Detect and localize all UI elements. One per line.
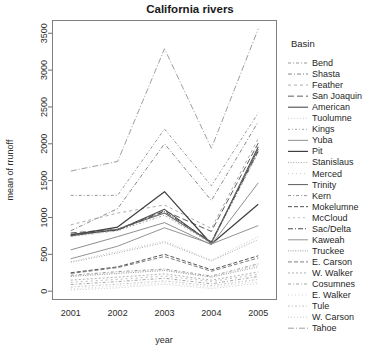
legend-item-tahoe[interactable]: Tahoe: [312, 323, 337, 333]
legend-item-w-carson[interactable]: W. Carson: [312, 312, 354, 322]
legend-item-e-carson[interactable]: E. Carson: [312, 257, 352, 267]
legend-item-kaweah[interactable]: Kaweah: [312, 235, 345, 245]
legend-item-trinity[interactable]: Trinity: [312, 180, 337, 190]
y-tick-label: 3000: [39, 60, 49, 80]
legend-item-san-joaquin[interactable]: San Joaquin: [312, 91, 362, 101]
y-tick-label: 500: [39, 247, 49, 262]
legend-item-cosumnes[interactable]: Cosumnes: [312, 279, 356, 289]
y-tick-label: 2500: [39, 97, 49, 117]
legend-item-mokelumne[interactable]: Mokelumne: [312, 202, 359, 212]
y-tick-label: 2000: [39, 134, 49, 154]
y-tick-label: 1000: [39, 207, 49, 227]
series-line: [71, 153, 259, 244]
x-tick-label: 2003: [154, 308, 174, 318]
legend-item-truckee[interactable]: Truckee: [312, 246, 344, 256]
legend-item-sac-delta[interactable]: Sac/Delta: [312, 224, 351, 234]
series-line: [71, 29, 259, 171]
legend-item-stanislaus[interactable]: Stanislaus: [312, 157, 354, 167]
x-axis-label: year: [155, 335, 173, 345]
x-axis-tick-labels: 20012002200320042005: [61, 308, 269, 318]
series-line: [71, 276, 259, 284]
y-tick-label: 3500: [39, 23, 49, 43]
legend-item-american[interactable]: American: [312, 102, 350, 112]
legend-item-mccloud[interactable]: McCloud: [312, 213, 348, 223]
chart-container: 0500100015002000250030003500 20012002200…: [0, 0, 380, 350]
series-line: [71, 113, 259, 196]
series-lines: [71, 29, 259, 290]
y-tick-label: 0: [39, 289, 49, 294]
x-tick-label: 2001: [61, 308, 81, 318]
series-line: [71, 283, 259, 290]
legend-item-kern[interactable]: Kern: [312, 191, 331, 201]
legend-item-merced[interactable]: Merced: [312, 169, 342, 179]
california-rivers-line-chart: 0500100015002000250030003500 20012002200…: [0, 0, 380, 350]
series-line: [71, 122, 259, 231]
legend-item-kings[interactable]: Kings: [312, 124, 335, 134]
x-tick-label: 2005: [248, 308, 268, 318]
y-tick-label: 1500: [39, 171, 49, 191]
legend-title: Basin: [291, 38, 315, 49]
x-tick-label: 2004: [201, 308, 221, 318]
legend-item-tule[interactable]: Tule: [312, 301, 329, 311]
series-line: [71, 139, 259, 229]
legend-item-bend[interactable]: Bend: [312, 58, 333, 68]
y-axis-tick-labels: 0500100015002000250030003500: [39, 23, 49, 293]
legend-item-feather[interactable]: Feather: [312, 80, 343, 90]
legend-item-e-walker[interactable]: E. Walker: [312, 290, 351, 300]
legend[interactable]: BendShastaFeatherSan JoaquinAmericanTuol…: [288, 58, 362, 333]
plot-frame: [53, 21, 277, 300]
legend-item-tuolumne[interactable]: Tuolumne: [312, 113, 352, 123]
legend-item-pit[interactable]: Pit: [312, 146, 323, 156]
page-title: California rivers: [146, 3, 234, 15]
y-axis-label: mean of rrunoff: [5, 139, 15, 200]
legend-item-yuba[interactable]: Yuba: [312, 135, 333, 145]
series-line: [71, 237, 259, 262]
x-tick-label: 2002: [108, 308, 128, 318]
legend-item-w-walker[interactable]: W. Walker: [312, 268, 353, 278]
legend-item-shasta[interactable]: Shasta: [312, 69, 340, 79]
